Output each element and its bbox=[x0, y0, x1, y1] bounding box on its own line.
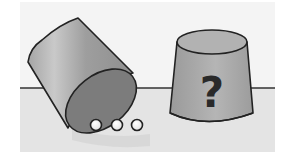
ball-1 bbox=[91, 120, 102, 131]
question-mark: ? bbox=[200, 68, 224, 117]
upright-cup: ? bbox=[170, 30, 253, 122]
ball-3 bbox=[132, 120, 143, 131]
illustration-canvas: ? bbox=[0, 0, 290, 155]
ball-2 bbox=[112, 120, 123, 131]
cups-illustration: ? bbox=[0, 0, 290, 155]
balls bbox=[91, 120, 143, 131]
upright-cup-top bbox=[177, 30, 247, 54]
